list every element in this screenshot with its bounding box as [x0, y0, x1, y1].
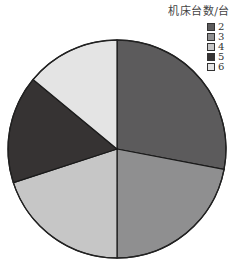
- pie-slice-2: [117, 40, 226, 169]
- pie-slices: [8, 40, 226, 258]
- pie-chart: [0, 0, 234, 273]
